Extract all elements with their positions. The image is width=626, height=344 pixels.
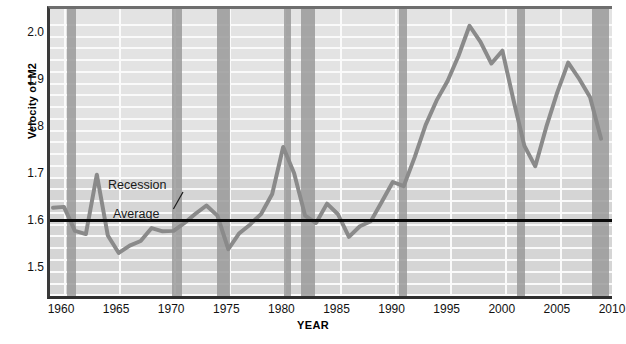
x-tick-label: 1980 <box>259 302 303 316</box>
y-tick-label: 1.6 <box>8 213 44 227</box>
y-tick-label: 1.9 <box>8 72 44 86</box>
y-axis-tick-labels: 2.0 1.9 1.8 1.7 1.6 1.5 <box>0 0 44 344</box>
x-tick-label: 1985 <box>315 302 359 316</box>
x-tick-label: 2005 <box>535 302 579 316</box>
x-tick-label: 2010 <box>590 302 626 316</box>
x-tick-label: 1960 <box>39 302 83 316</box>
x-tick-label: 1995 <box>425 302 469 316</box>
x-tick-label: 1975 <box>204 302 248 316</box>
x-tick-label: 1990 <box>370 302 414 316</box>
plot-area <box>47 6 612 299</box>
y-tick-label: 1.8 <box>8 119 44 133</box>
x-tick-label: 1970 <box>149 302 193 316</box>
velocity-of-m2-chart: Velocity of M2 2.0 1.9 1.8 1.7 1.6 1.5 R… <box>0 0 626 344</box>
y-tick-label: 1.7 <box>8 166 44 180</box>
x-axis-title: YEAR <box>0 319 626 331</box>
recession-annotation-label: Recession <box>108 178 166 192</box>
y-tick-label: 1.5 <box>8 260 44 274</box>
x-tick-label: 2000 <box>480 302 524 316</box>
x-tick-label: 1965 <box>94 302 138 316</box>
velocity-line-series <box>50 9 612 296</box>
average-annotation-label: Average <box>113 207 159 221</box>
y-tick-label: 2.0 <box>8 25 44 39</box>
